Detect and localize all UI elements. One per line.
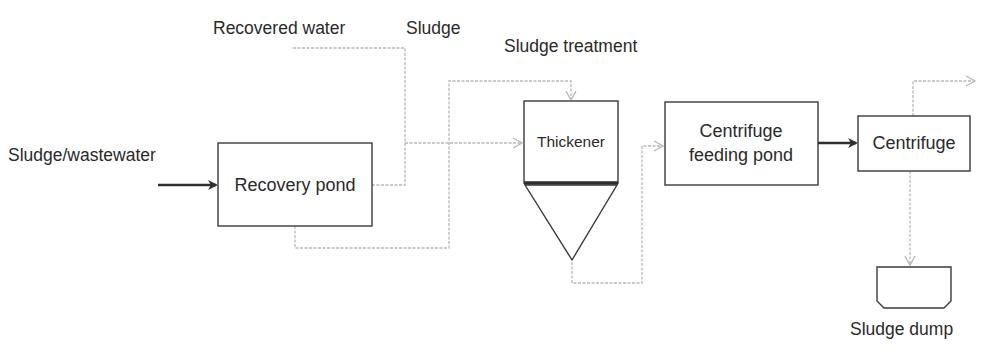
sludge-treatment-flow-diagram: Recovered water Sludge Sludge treatment … — [0, 0, 1008, 361]
centrifuge-feeding-pond-label-line1: Centrifuge — [699, 121, 782, 141]
thickener-node[interactable]: Thickener — [524, 101, 618, 260]
centrifuge-label: Centrifuge — [872, 133, 955, 153]
thickener-cone — [525, 185, 617, 260]
centrifuge-feeding-pond-node[interactable]: Centrifuge feeding pond — [665, 102, 818, 185]
sludge-dump-container-icon — [877, 267, 951, 308]
sludge-label: Sludge — [406, 18, 461, 38]
sludge-dump-node[interactable] — [877, 267, 951, 308]
recovery-pond-node[interactable]: Recovery pond — [218, 143, 372, 226]
recovered-water-label: Recovered water — [213, 18, 345, 38]
centrifuge-feeding-pond-label-line2: feeding pond — [689, 145, 793, 165]
recovery-pond-label: Recovery pond — [234, 175, 355, 195]
centrifuge-node[interactable]: Centrifuge — [858, 116, 970, 171]
thickener-label: Thickener — [537, 133, 605, 150]
sludge-treatment-title: Sludge treatment — [504, 36, 637, 56]
centrifuge-output-line — [913, 81, 975, 116]
sludge-wastewater-input-label: Sludge/wastewater — [8, 145, 156, 165]
sludge-dump-label: Sludge dump — [850, 319, 953, 339]
